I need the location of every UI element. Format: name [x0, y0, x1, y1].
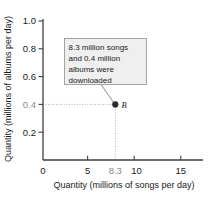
callout-line-2: and 0.4 million	[69, 54, 121, 63]
x-tick-label-8p3: 8.3	[109, 165, 122, 176]
x-tick-label-5: 5	[85, 165, 90, 176]
x-tick-label-0: 0	[40, 165, 45, 176]
y-tick-label-1p0: 1.0	[23, 15, 36, 26]
point-b-marker[interactable]	[112, 101, 118, 107]
y-tick-label-0p4: 0.4	[23, 99, 36, 110]
callout-line-1: 8.3 million songs	[69, 43, 129, 52]
y-tick-label-0p6: 0.6	[23, 71, 36, 82]
callout-line-3: albums were	[69, 65, 115, 74]
x-tick-label-15: 15	[176, 165, 187, 176]
x-tick-label-10: 10	[131, 165, 142, 176]
y-tick-label-0p8: 0.8	[23, 43, 36, 54]
point-b-label: B	[122, 100, 127, 110]
y-axis-title: Quantity (millions of albums per day)	[3, 16, 13, 162]
callout-line-4: downloaded	[69, 76, 112, 85]
scatter-chart: 1.0 0.8 0.6 0.4 0.2 0 5 8.3 10 15 Quanti…	[0, 0, 214, 202]
y-tick-label-0p2: 0.2	[23, 127, 36, 138]
x-axis-title: Quantity (millions of songs per day)	[53, 180, 194, 190]
chart-container: 1.0 0.8 0.6 0.4 0.2 0 5 8.3 10 15 Quanti…	[0, 0, 214, 202]
